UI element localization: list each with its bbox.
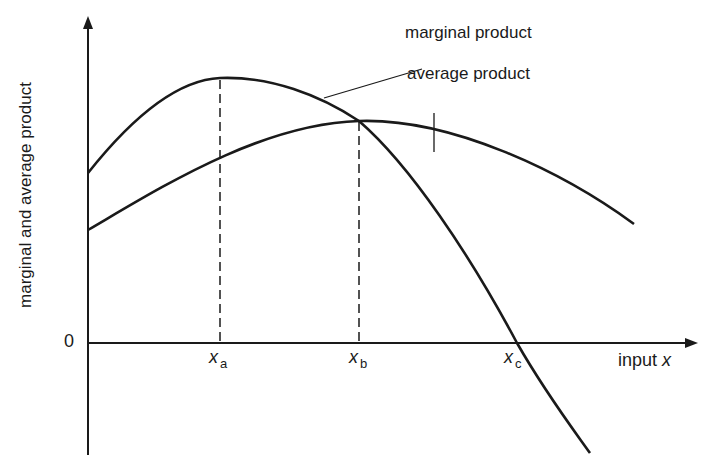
marginal-product-label: marginal product	[405, 23, 532, 43]
marginal-product-curve	[88, 78, 590, 453]
origin-label: 0	[64, 331, 74, 352]
diagram-canvas	[0, 0, 707, 473]
tick-xc-sub: c	[515, 356, 522, 371]
tick-xa: xa	[209, 347, 227, 371]
tick-xc-base: x	[504, 347, 513, 367]
tick-xa-base: x	[209, 347, 218, 367]
y-axis-arrow-icon	[83, 16, 93, 29]
tick-xa-sub: a	[220, 356, 227, 371]
average-product-label: average product	[407, 64, 530, 84]
y-axis-label: marginal and average product	[16, 82, 36, 308]
x-axis-arrow-icon	[685, 338, 698, 348]
x-axis-label: input x	[618, 350, 671, 371]
x-axis-label-word: input	[618, 350, 657, 370]
average-product-curve	[88, 121, 634, 230]
tick-xc: xc	[504, 347, 522, 371]
x-axis-label-var: x	[662, 350, 671, 370]
tick-xb-base: x	[349, 347, 358, 367]
tick-xb: xb	[349, 347, 367, 371]
tick-xb-sub: b	[360, 356, 367, 371]
